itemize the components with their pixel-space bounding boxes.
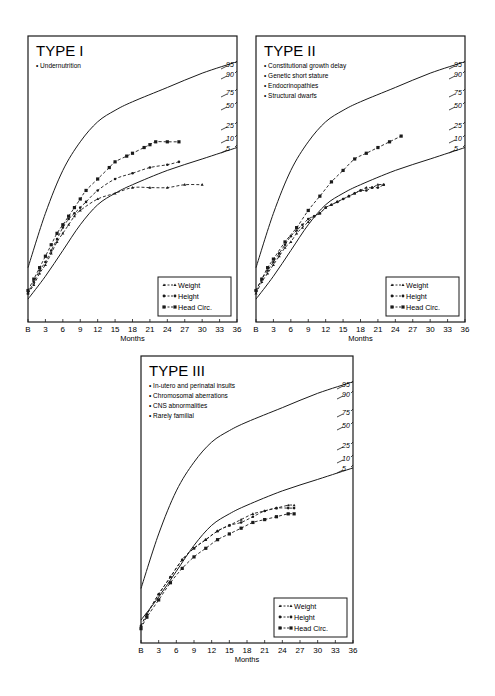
bullet-item: • Endocrinopathies — [264, 82, 319, 90]
x-tick-label: 15 — [111, 325, 120, 334]
legend-item: Height — [294, 613, 315, 622]
percentile-label: 90 — [342, 391, 350, 398]
percentile-label: 50 — [454, 102, 462, 109]
x-tick-label: 12 — [207, 646, 216, 655]
x-tick-label: 18 — [243, 646, 252, 655]
bullet-item: • Undernutrition — [36, 62, 81, 69]
percentile-label: 25 — [453, 122, 462, 129]
panel-title: TYPE III — [149, 362, 205, 379]
series-height — [141, 508, 294, 626]
bullet-item: • Genetic short stature — [264, 72, 329, 79]
legend-item: Head Circ. — [178, 303, 212, 312]
x-tick-label: B — [138, 646, 143, 655]
x-tick-label: 18 — [128, 325, 137, 334]
percentile-label: 90 — [226, 71, 234, 78]
x-tick-label: 18 — [356, 325, 365, 334]
x-tick-label: 27 — [180, 325, 189, 334]
x-tick-label: B — [253, 325, 258, 334]
x-tick-label: 6 — [174, 646, 179, 655]
x-tick-label: 9 — [78, 325, 83, 334]
percentile-label: 90 — [454, 71, 462, 78]
x-tick-label: 15 — [225, 646, 234, 655]
percentile-label: 25 — [341, 442, 350, 449]
percentile-label: 95 — [226, 61, 234, 68]
x-tick-label: 36 — [461, 325, 470, 334]
x-tick-label: 30 — [313, 646, 322, 655]
growth-patterns-figure: TYPE I• Undernutrition9590755025105B3691… — [0, 0, 495, 696]
legend-item: Head Circ. — [294, 624, 328, 633]
x-tick-label: 27 — [408, 325, 417, 334]
x-tick-label: 6 — [289, 325, 294, 334]
bullet-item: • Constitutional growth delay — [264, 62, 347, 70]
legend: WeightHeightHead Circ. — [386, 277, 459, 316]
x-tick-label: 21 — [260, 646, 269, 655]
x-tick-label: 12 — [321, 325, 330, 334]
x-axis-label: Months — [235, 655, 260, 664]
x-tick-label: 24 — [278, 646, 287, 655]
series-head-circ- — [256, 136, 401, 290]
percentile-curve — [256, 148, 465, 300]
series-height — [256, 185, 384, 291]
percentile-label: 75 — [454, 89, 462, 96]
x-tick-label: 3 — [43, 325, 48, 334]
percentile-label: 75 — [342, 409, 350, 416]
x-tick-label: 30 — [198, 325, 207, 334]
percentile-label: 10 — [454, 135, 462, 142]
x-tick-label: 15 — [339, 325, 348, 334]
legend-item: Height — [178, 292, 199, 301]
legend: WeightHeightHead Circ. — [158, 277, 231, 316]
x-tick-label: 36 — [233, 325, 242, 334]
x-tick-label: 33 — [443, 325, 452, 334]
series-height — [28, 162, 179, 294]
x-tick-label: 30 — [426, 325, 435, 334]
x-tick-label: 9 — [306, 325, 311, 334]
x-tick-label: 12 — [93, 325, 102, 334]
percentile-label: 5 — [226, 145, 230, 152]
percentile-label: 5 — [454, 145, 458, 152]
panel-title: TYPE I — [36, 42, 84, 59]
legend-item: Weight — [406, 281, 428, 290]
panel-type-ii: TYPE II• Constitutional growth delay• Ge… — [253, 36, 470, 343]
percentile-curve — [28, 62, 237, 268]
x-tick-label: 33 — [331, 646, 340, 655]
x-tick-label: 3 — [156, 646, 161, 655]
x-tick-label: 24 — [163, 325, 172, 334]
panel-type-iii: TYPE III• In-utero and perinatal insults… — [138, 356, 358, 664]
percentile-label: 10 — [342, 455, 350, 462]
percentile-label: 95 — [342, 381, 350, 388]
percentile-label: 5 — [342, 465, 346, 472]
bullet-item: • Chromosomal aberrations — [149, 392, 229, 399]
percentile-label: 25 — [225, 122, 234, 129]
percentile-label: 50 — [226, 102, 234, 109]
series-weight — [141, 505, 294, 626]
x-tick-label: 21 — [145, 325, 154, 334]
x-tick-label: 27 — [296, 646, 305, 655]
x-tick-label: 3 — [271, 325, 276, 334]
x-tick-label: 9 — [192, 646, 197, 655]
series-weight — [256, 185, 384, 294]
x-tick-label: 21 — [373, 325, 382, 334]
panel-title: TYPE II — [264, 42, 316, 59]
percentile-label: 75 — [226, 89, 234, 96]
legend-item: Head Circ. — [406, 303, 440, 312]
legend-item: Weight — [178, 281, 200, 290]
percentile-label: 10 — [226, 135, 234, 142]
legend-item: Height — [406, 292, 427, 301]
percentile-curve — [141, 468, 353, 620]
legend-item: Weight — [294, 602, 316, 611]
x-tick-label: B — [25, 325, 30, 334]
x-tick-label: 6 — [61, 325, 66, 334]
bullet-item: • CNS abnormalities — [149, 402, 208, 409]
x-axis-label: Months — [348, 334, 373, 343]
bullet-item: • Structural dwarfs — [264, 92, 318, 99]
legend: WeightHeightHead Circ. — [274, 598, 347, 637]
panel-type-i: TYPE I• Undernutrition9590755025105B3691… — [25, 36, 242, 343]
bullet-item: • Rarely familial — [149, 412, 194, 420]
x-axis-label: Months — [120, 334, 145, 343]
x-tick-label: 36 — [349, 646, 358, 655]
x-tick-label: 33 — [215, 325, 224, 334]
percentile-label: 50 — [342, 422, 350, 429]
bullet-item: • In-utero and perinatal insults — [149, 382, 236, 390]
percentile-label: 95 — [454, 61, 462, 68]
percentile-curve — [28, 148, 237, 300]
